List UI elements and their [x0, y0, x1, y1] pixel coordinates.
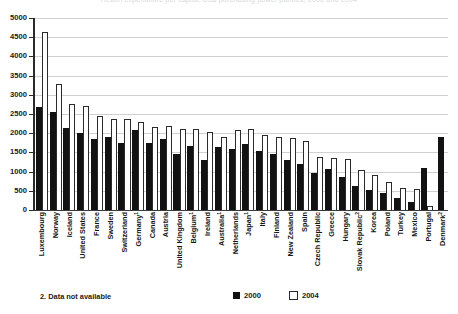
legend-label-2000: 2000 — [244, 291, 261, 300]
y-axis-tick-label: 4000 — [10, 53, 27, 61]
x-axis-label: Czech Republic — [312, 212, 326, 290]
footnote-marker: 1 — [188, 212, 194, 215]
bar-2004 — [358, 170, 364, 210]
bar-group — [118, 18, 132, 210]
x-axis-label: United Kingdom — [173, 212, 187, 290]
y-axis-tick-label: 3000 — [10, 91, 27, 99]
x-axis-label: Canada — [146, 212, 160, 290]
chart-figure: Health expenditure per capita, US$ purch… — [0, 0, 458, 314]
bar-2004 — [42, 32, 48, 210]
x-axis-label: Hungary — [339, 212, 353, 290]
bar-group — [49, 18, 63, 210]
x-axis-label: Ireland — [201, 212, 215, 290]
legend-swatch-2000-icon — [233, 292, 240, 299]
footnote-marker: 2 — [437, 212, 443, 215]
bar-2004 — [345, 159, 351, 210]
x-axis-label: Korea — [367, 212, 381, 290]
bar-group — [200, 18, 214, 210]
bar-2004 — [193, 129, 199, 210]
bar-group — [104, 18, 118, 210]
bar-2004 — [317, 157, 323, 210]
bar-group — [159, 18, 173, 210]
x-axis-label: Mexico — [408, 212, 422, 290]
bar-group — [90, 18, 104, 210]
bar-group — [214, 18, 228, 210]
y-axis-tick-label: 500 — [14, 187, 27, 195]
bar-group — [297, 18, 311, 210]
y-axis-tick-label: 5000 — [10, 14, 27, 22]
x-axis-label: Netherlands — [229, 212, 243, 290]
bar-group — [365, 18, 379, 210]
bar-2004 — [303, 141, 309, 210]
bar-group — [241, 18, 255, 210]
bar-group — [324, 18, 338, 210]
legend-item-2004: 2004 — [289, 291, 319, 300]
x-axis-label: Portugal — [422, 212, 436, 290]
bar-2004 — [166, 126, 172, 210]
bar-group — [63, 18, 77, 210]
footnote-marker: 1 — [216, 212, 222, 215]
plot-area: 0500100015002000250030003500400045005000 — [33, 18, 448, 210]
bar-2004 — [111, 119, 117, 210]
chart-footnote: 2. Data not available — [40, 292, 111, 301]
y-axis-tick-label: 2500 — [10, 110, 27, 118]
bar-group — [393, 18, 407, 210]
bar-group — [283, 18, 297, 210]
x-axis-label: Sweden — [104, 212, 118, 290]
x-axis-label: Japan1 — [242, 212, 256, 290]
x-axis-label: Iceland — [63, 212, 77, 290]
x-axis-label: Belgium1 — [187, 212, 201, 290]
bar-2000 — [438, 137, 444, 210]
x-axis-label: Luxembourg — [35, 212, 49, 290]
y-axis-tick-label: 4500 — [10, 34, 27, 42]
bar-group — [434, 18, 448, 210]
chart-title: Health expenditure per capita, US$ purch… — [0, 0, 458, 4]
axis-baseline — [33, 210, 448, 211]
x-axis-label: Spain — [298, 212, 312, 290]
y-axis-tick-label: 1500 — [10, 149, 27, 157]
bar-2004 — [262, 135, 268, 210]
bar-2004 — [83, 106, 89, 210]
bar-group — [352, 18, 366, 210]
bar-group — [338, 18, 352, 210]
bar-2004 — [124, 119, 130, 210]
bar-group — [407, 18, 421, 210]
bar-2004 — [207, 132, 213, 210]
x-axis-label: Turkey — [395, 212, 409, 290]
bar-2004 — [427, 206, 433, 210]
bar-2004 — [138, 122, 144, 210]
bar-group — [255, 18, 269, 210]
y-axis-tick — [29, 210, 33, 211]
y-axis-tick-label: 0 — [23, 206, 27, 214]
legend-item-2000: 2000 — [233, 291, 261, 300]
bar-2004 — [290, 138, 296, 210]
chart-title-strip: Health expenditure per capita, US$ purch… — [0, 0, 458, 13]
bar-group — [145, 18, 159, 210]
bar-group — [76, 18, 90, 210]
bar-2004 — [152, 127, 158, 210]
footnote-marker: 1 — [243, 212, 249, 215]
bar-2004 — [235, 130, 241, 210]
x-axis-label: Greece — [325, 212, 339, 290]
x-axis-label: France — [90, 212, 104, 290]
x-axis-label: Italy — [256, 212, 270, 290]
x-axis-label: Norway — [49, 212, 63, 290]
bar-group — [379, 18, 393, 210]
footnote-marker: 1 — [133, 212, 139, 215]
bar-2004 — [56, 84, 62, 210]
bar-group — [173, 18, 187, 210]
x-axis-label: Switzerland — [118, 212, 132, 290]
y-axis-tick-label: 3500 — [10, 72, 27, 80]
bar-2004 — [372, 175, 378, 210]
bar-group — [420, 18, 434, 210]
x-axis-label: United States — [76, 212, 90, 290]
bar-2004 — [386, 182, 392, 210]
bar-2004 — [248, 129, 254, 210]
bar-group — [228, 18, 242, 210]
bar-2004 — [331, 158, 337, 210]
x-axis-label: Austria — [159, 212, 173, 290]
x-axis-label: Australia1 — [215, 212, 229, 290]
bar-group — [269, 18, 283, 210]
x-axis-label: Poland — [381, 212, 395, 290]
bar-2004 — [97, 116, 103, 210]
